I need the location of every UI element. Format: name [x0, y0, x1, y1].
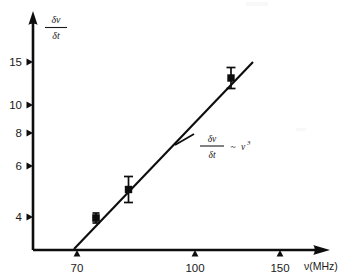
log-log-plot: 15 10 8 6 4 70 100 150 δν δt ν(MHz)	[0, 0, 358, 280]
marker-square	[92, 214, 100, 222]
y-axis-label: δν δt	[45, 14, 67, 41]
y-tick-labels: 15 10 8 6 4	[9, 56, 22, 223]
power-law-annotation: δν δt ~ ν 3	[175, 134, 251, 160]
y-tick-label-6: 6	[16, 160, 22, 172]
annotation-expression-base: ν	[241, 142, 246, 152]
figure-canvas: 15 10 8 6 4 70 100 150 δν δt ν(MHz)	[0, 0, 358, 280]
y-tick-label-15: 15	[9, 56, 22, 68]
marker-square	[227, 74, 234, 81]
annotation-denominator: δt	[208, 150, 215, 160]
x-tick-label-150: 150	[270, 262, 289, 274]
axes-group	[28, 11, 330, 255]
data-point	[124, 176, 133, 203]
power-law-fit-line	[74, 62, 253, 249]
data-point	[227, 67, 236, 89]
y-axis-label-numerator: δν	[51, 14, 61, 25]
x-tick-label-100: 100	[185, 262, 204, 274]
annotation-expression-exponent: 3	[246, 139, 251, 147]
x-tick-label-70: 70	[71, 262, 84, 274]
up-arrowhead-icon	[28, 11, 37, 25]
marker-square	[125, 186, 132, 193]
y-tick-label-10: 10	[9, 99, 22, 111]
right-arrowhead-icon	[313, 245, 330, 255]
x-axis-label: ν(MHz)	[304, 260, 338, 272]
data-point	[92, 213, 100, 223]
annotation-relation-symbol: ~	[230, 142, 235, 152]
annotation-numerator: δν	[208, 134, 217, 144]
x-tick-labels: 70 100 150	[71, 262, 290, 274]
y-tick-label-4: 4	[16, 211, 23, 223]
y-tick-label-8: 8	[16, 127, 22, 139]
data-point-group	[92, 67, 235, 223]
y-axis-label-denominator: δt	[52, 30, 60, 41]
